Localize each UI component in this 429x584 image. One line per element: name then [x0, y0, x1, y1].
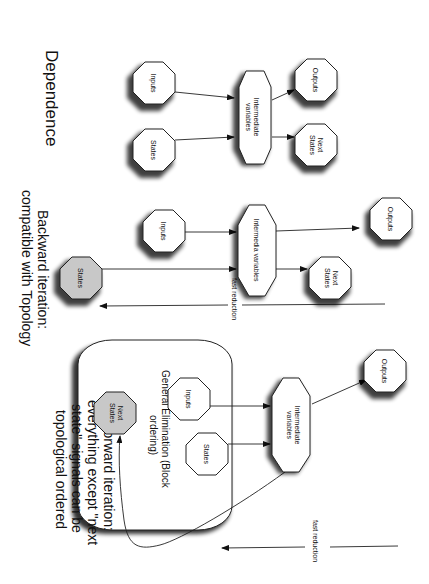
fast-reduction-line-right — [330, 546, 398, 547]
general-elimination-label-line1: General Elimination (Block — [160, 370, 171, 489]
svg-text:Outputs: Outputs — [311, 68, 319, 93]
node-intermediate-variables: Intermediate variables — [233, 71, 271, 166]
section-title-backward-line2: compatible with Topology — [19, 190, 35, 346]
fast-reduction-arrow — [100, 305, 228, 306]
fast-reduction-line-right — [242, 304, 385, 305]
node-outputs: Outputs — [290, 59, 337, 108]
svg-text:Outputs: Outputs — [386, 207, 394, 232]
section-title-dependence: Dependence — [42, 50, 61, 146]
section-title-forward-line1: Forward iteration: — [101, 422, 117, 531]
node-next-states-highlighted: Next States — [94, 392, 136, 434]
edge-intermediate-to-outputs — [312, 380, 366, 404]
section-title-forward-line4: topological ordered — [53, 410, 69, 529]
node-outputs: Outputs — [359, 350, 406, 399]
svg-text:Inputs: Inputs — [184, 389, 192, 409]
svg-text:Next: Next — [317, 138, 324, 152]
node-states: States — [186, 433, 228, 475]
svg-text:States: States — [109, 403, 116, 423]
svg-text:Intermediate: Intermediate — [253, 98, 260, 137]
svg-text:Outputs: Outputs — [380, 359, 388, 384]
general-elimination-label-line2: ordering) — [148, 415, 159, 455]
svg-text:variables: variables — [286, 411, 293, 440]
diagram-canvas: Dependence Inputs States Intermediate va… — [0, 0, 429, 584]
svg-text:Intermedia variables: Intermedia variables — [253, 218, 260, 282]
section-backward-iteration: Backward iteration: compatible with Topo… — [19, 190, 412, 346]
svg-text:Next: Next — [117, 406, 124, 420]
section-title-forward-line3: state" signals can be — [69, 404, 85, 533]
section-dependence: Dependence Inputs States Intermediate va… — [42, 50, 337, 178]
svg-text:Next: Next — [332, 271, 339, 285]
node-intermediate-variables: Intermediate variables — [267, 378, 310, 474]
node-intermedia-variables: Intermedia variables — [233, 205, 276, 299]
svg-text:Intermediate: Intermediate — [294, 406, 301, 445]
svg-text:States: States — [77, 268, 84, 288]
edge-inputs-to-intermediate — [175, 92, 234, 98]
edge-states-to-intermediate — [175, 137, 234, 140]
svg-text:States: States — [203, 444, 210, 464]
node-states: States — [127, 129, 175, 178]
section-title-backward-line1: Backward iteration: — [35, 210, 51, 329]
node-inputs: Inputs — [127, 62, 175, 111]
fast-reduction-label: fast reduction — [312, 520, 319, 562]
svg-text:Inputs: Inputs — [149, 73, 157, 93]
node-next-states: Next States — [290, 124, 337, 173]
svg-text:States: States — [150, 140, 157, 160]
svg-text:Inputs: Inputs — [159, 221, 167, 241]
svg-text:variables: variables — [245, 103, 252, 132]
node-states-highlighted: States — [54, 257, 102, 306]
node-inputs: Inputs — [137, 210, 185, 259]
svg-text:States: States — [309, 135, 316, 155]
section-forward-iteration: General Elimination (Block ordering) For… — [53, 340, 406, 562]
node-inputs: Inputs — [168, 378, 210, 420]
node-outputs: Outputs — [365, 198, 412, 247]
fast-reduction-arrow — [222, 547, 305, 548]
node-next-states: Next States — [304, 257, 351, 306]
edge-intermedia-to-outputs — [276, 228, 359, 231]
svg-text:States: States — [324, 268, 331, 288]
